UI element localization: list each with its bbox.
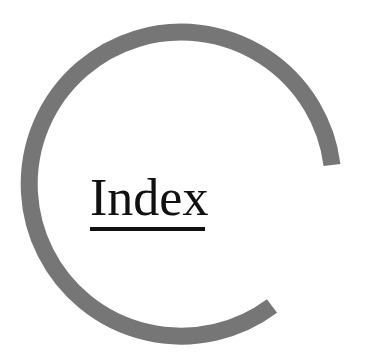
title-underline	[90, 227, 205, 231]
page-title: Index	[90, 172, 208, 224]
